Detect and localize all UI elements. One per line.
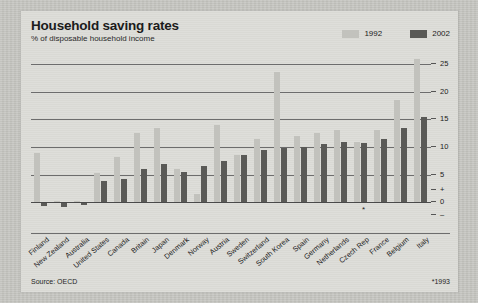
chart-legend: 1992 2002	[342, 29, 450, 38]
bar-2002	[401, 128, 407, 203]
x-axis-label-text: Italy	[415, 235, 431, 251]
legend-item-1992: 1992	[342, 29, 382, 38]
bar-1992	[214, 125, 220, 202]
y-tick-dash	[431, 91, 436, 92]
bar-2002	[261, 150, 267, 203]
bar-1992	[334, 130, 340, 202]
bar-2002	[381, 139, 387, 203]
bar-2002	[301, 147, 307, 202]
y-tick-label: 0	[440, 197, 444, 206]
y-tick-label: 5	[440, 170, 444, 179]
bar-2002	[161, 164, 167, 203]
bar-1992	[314, 133, 320, 202]
y-tick-label: 15	[440, 114, 448, 123]
bar-group	[54, 53, 74, 219]
bar-2002	[281, 148, 287, 202]
bar-group	[214, 53, 234, 219]
bar-2002	[181, 172, 187, 202]
bar-group	[194, 53, 214, 219]
bar-2002	[361, 143, 367, 203]
bar-group	[134, 53, 154, 219]
bar-group	[234, 53, 254, 219]
y-tick-label: 10	[440, 142, 448, 151]
legend-label-1992: 1992	[364, 29, 382, 38]
bar-1992	[134, 133, 140, 202]
bar-group	[94, 53, 114, 219]
bar-1992	[154, 128, 160, 203]
legend-swatch-2002	[410, 30, 427, 38]
bar-group	[354, 53, 374, 219]
y-tick-dash	[431, 118, 436, 119]
bar-2002	[321, 144, 327, 202]
bar-2002	[241, 155, 247, 202]
y-tick-dash	[431, 189, 436, 190]
x-axis-labels: FinlandNew ZealandAustraliaUnited States…	[21, 235, 458, 277]
footnote-asterisk-marker: *	[362, 205, 365, 214]
bar-1992	[114, 157, 120, 202]
bar-2002	[341, 142, 347, 203]
legend-swatch-1992	[342, 30, 359, 38]
source-note: Source: OECD	[31, 278, 77, 285]
bar-1992	[234, 155, 240, 202]
bar-series-container	[31, 53, 431, 219]
bar-1992	[34, 153, 40, 203]
bar-2002	[121, 179, 127, 202]
y-tick-dash	[431, 146, 436, 147]
bar-group	[314, 53, 334, 219]
bar-group	[34, 53, 54, 219]
bar-group	[374, 53, 394, 219]
bar-1992	[274, 72, 280, 202]
bar-1992	[394, 100, 400, 202]
y-tick-label: 20	[440, 87, 448, 96]
bar-group	[154, 53, 174, 219]
bar-1992	[294, 136, 300, 202]
zero-baseline	[31, 202, 431, 203]
bar-1992	[254, 139, 260, 203]
y-tick-label: –	[440, 210, 444, 219]
chart-title: Household saving rates	[31, 18, 179, 33]
bar-group	[174, 53, 194, 219]
bar-2002	[141, 169, 147, 202]
bar-1992	[354, 142, 360, 203]
y-axis-ticks: 252015105+0–	[431, 53, 459, 233]
y-tick-dash	[431, 63, 436, 64]
bar-1992	[374, 130, 380, 202]
bar-group	[254, 53, 274, 219]
bar-group	[294, 53, 314, 219]
y-tick-label: 25	[440, 59, 448, 68]
bar-group	[274, 53, 294, 219]
y-tick-label: +	[440, 185, 444, 194]
bar-2002	[421, 117, 427, 203]
screenshot-page: Household saving rates % of disposable h…	[0, 0, 478, 303]
y-tick-dash	[431, 174, 436, 175]
bar-2002	[221, 161, 227, 203]
legend-item-2002: 2002	[410, 29, 450, 38]
y-tick-dash	[431, 214, 436, 215]
footnote: *1993	[432, 278, 450, 285]
chart-subtitle: % of disposable household income	[31, 34, 155, 43]
bar-1992	[194, 194, 200, 202]
bar-1992	[174, 169, 180, 202]
y-tick-dash	[431, 201, 436, 202]
legend-label-2002: 2002	[432, 29, 450, 38]
chart-card: Household saving rates % of disposable h…	[21, 11, 458, 292]
bar-1992	[94, 173, 100, 202]
bar-group	[114, 53, 134, 219]
bar-1992	[414, 59, 420, 203]
bar-2002	[101, 181, 107, 202]
bar-group	[74, 53, 94, 219]
bar-2002	[201, 166, 207, 202]
bar-group	[394, 53, 414, 219]
bar-group	[334, 53, 354, 219]
plot-area	[31, 53, 431, 219]
